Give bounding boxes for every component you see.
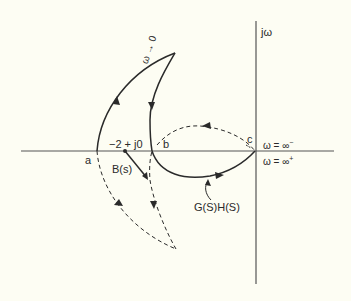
plot-canvas xyxy=(0,0,351,301)
omega-inf-minus-text: ω = ∞ xyxy=(263,140,289,151)
point-a-label: a xyxy=(85,155,91,166)
b-of-s-label: B(s) xyxy=(112,164,132,175)
nyquist-diagram: jω ω → 0 −2 + j0 b c a ω = ∞− ω = ∞+ B(s… xyxy=(0,0,351,301)
omega-inf-minus-sup: − xyxy=(289,139,293,146)
gh-locus-outer xyxy=(97,53,175,151)
gh-label: G(S)H(S) xyxy=(194,202,240,213)
c-tick xyxy=(246,145,251,148)
arrow-icon xyxy=(148,102,155,110)
omega-inf-minus-label: ω = ∞− xyxy=(263,139,293,151)
arrow-icon xyxy=(205,179,211,186)
point-c-label: c xyxy=(247,134,253,145)
omega-inf-plus-text: ω = ∞ xyxy=(263,156,289,167)
imaginary-axis-label: jω xyxy=(261,27,272,38)
critical-point-label: −2 + j0 xyxy=(109,139,143,150)
arrow-icon xyxy=(150,201,157,209)
mirror-locus-upper xyxy=(157,126,255,151)
mirror-locus-inner xyxy=(150,151,176,249)
omega-inf-plus-label: ω = ∞+ xyxy=(263,155,293,167)
arrow-icon xyxy=(202,122,211,129)
arrow-icon xyxy=(114,199,123,206)
omega-inf-plus-sup: + xyxy=(289,155,293,162)
point-b-label: b xyxy=(163,139,169,150)
gh-locus-lower xyxy=(152,151,255,177)
